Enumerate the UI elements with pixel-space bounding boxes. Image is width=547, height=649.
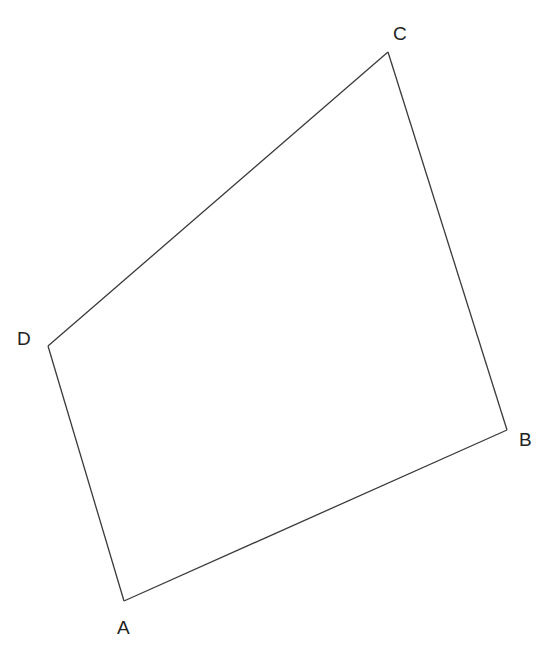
edge-ab xyxy=(124,430,507,601)
vertex-label-b: B xyxy=(519,429,532,450)
edge-cd xyxy=(48,52,388,346)
vertex-label-d: D xyxy=(17,328,31,349)
vertex-label-c: C xyxy=(393,23,407,44)
quadrilateral-diagram: A B C D xyxy=(0,0,547,649)
edge-da xyxy=(48,346,124,601)
edge-bc xyxy=(388,52,507,430)
vertex-label-a: A xyxy=(117,617,130,638)
